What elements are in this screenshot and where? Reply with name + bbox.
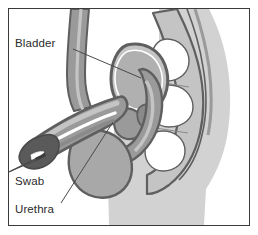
label-swab: Swab (15, 175, 44, 187)
figure-root: Bladder Swab Urethra (0, 0, 258, 235)
anatomy-diagram: Bladder Swab Urethra (9, 9, 249, 225)
figure-frame: Bladder Swab Urethra (8, 8, 250, 226)
label-bladder: Bladder (15, 37, 55, 49)
label-urethra: Urethra (15, 203, 55, 215)
